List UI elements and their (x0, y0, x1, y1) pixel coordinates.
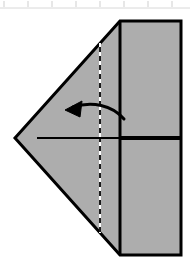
fold-diagram-figure (0, 0, 190, 268)
fold-diagram-canvas (0, 0, 190, 268)
ruler-strip (0, 1, 190, 8)
